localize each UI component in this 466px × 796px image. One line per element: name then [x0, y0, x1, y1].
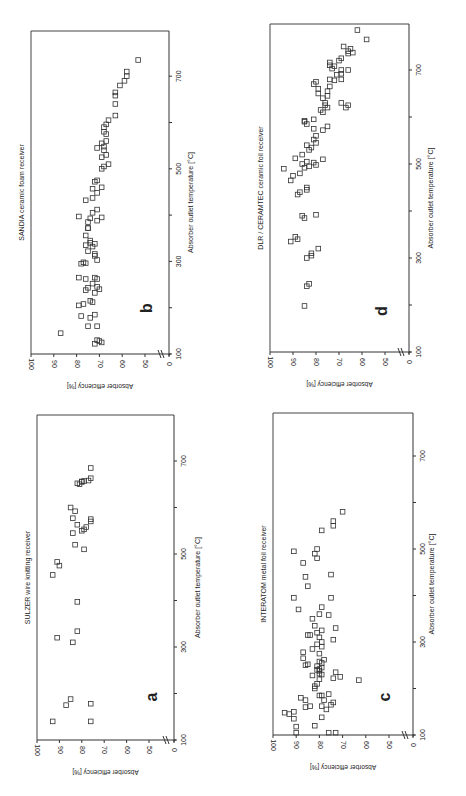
data-point — [99, 185, 104, 190]
data-point — [287, 712, 292, 717]
data-point — [298, 171, 303, 176]
data-point — [301, 656, 306, 661]
data-point — [104, 153, 109, 158]
data-point — [294, 724, 299, 729]
efficiency-tick-label: 100 — [267, 356, 274, 368]
chart-title: SANDIA ceramic foam receiver — [18, 144, 25, 241]
data-point — [322, 698, 327, 703]
data-point — [302, 304, 307, 309]
data-point — [315, 630, 320, 635]
data-point — [282, 166, 287, 171]
efficiency-tick-label: 50 — [386, 741, 393, 749]
data-point — [316, 87, 321, 92]
data-point — [88, 466, 93, 471]
data-point — [93, 312, 98, 317]
figure-canvas: 10090807060500100300500700Absorber outle… — [0, 0, 466, 796]
data-point — [328, 60, 333, 65]
temperature-tick-label: 500 — [419, 543, 426, 555]
data-point — [71, 516, 76, 521]
data-point — [104, 139, 109, 144]
data-point — [325, 89, 330, 94]
data-point — [73, 509, 78, 514]
data-point — [328, 77, 333, 82]
data-point — [71, 640, 76, 645]
efficiency-axis-title: Absorber efficiency [%] — [72, 768, 139, 776]
data-point — [50, 573, 55, 578]
efficiency-tick-label: 50 — [382, 358, 389, 366]
data-point — [79, 314, 84, 319]
data-point — [339, 101, 344, 106]
data-point — [311, 117, 316, 122]
efficiency-tick-label: 60 — [359, 358, 366, 366]
data-point — [306, 584, 311, 589]
data-point — [58, 331, 63, 336]
data-point — [124, 74, 129, 79]
data-point — [326, 730, 331, 735]
data-point — [315, 556, 320, 561]
data-point — [331, 519, 336, 524]
data-point — [124, 69, 129, 74]
chart-panel-c: 10090807060500100300500700Absorber outle… — [260, 413, 436, 771]
data-point — [317, 612, 322, 617]
data-point — [113, 90, 118, 95]
data-point — [288, 178, 293, 183]
temperature-axis-title: Absorber outlet temperature [°C] — [427, 148, 435, 249]
data-point — [71, 531, 76, 536]
data-point — [136, 58, 141, 63]
data-point — [122, 79, 127, 84]
data-point — [93, 252, 98, 257]
data-point — [326, 613, 331, 618]
efficiency-axis-title: Absorber efficiency [%] — [310, 763, 377, 771]
data-point — [331, 676, 336, 681]
data-point — [292, 549, 297, 554]
data-point — [301, 561, 306, 566]
panel-letter: b — [138, 303, 155, 313]
data-point — [64, 703, 69, 708]
chart-panel-b: 10090807060500100300500700Absorber outle… — [18, 31, 195, 390]
data-point — [316, 91, 321, 96]
temperature-tick-label: 700 — [175, 70, 182, 82]
data-point — [99, 215, 104, 220]
data-point — [331, 637, 336, 642]
efficiency-tick-label: 100 — [28, 358, 35, 370]
data-point — [86, 249, 91, 254]
temperature-axis-title: Absorber outlet temperature [°C] — [194, 537, 202, 638]
efficiency-tick-label: 60 — [363, 741, 370, 749]
data-point — [312, 623, 317, 628]
data-point — [321, 128, 326, 133]
temperature-tick-label: 300 — [415, 252, 422, 264]
data-point — [325, 94, 330, 99]
data-point — [95, 191, 100, 196]
data-point — [308, 704, 313, 709]
data-point — [292, 596, 297, 601]
data-point — [88, 719, 93, 724]
data-point — [88, 701, 93, 706]
data-point — [301, 650, 306, 655]
data-point — [294, 730, 299, 735]
data-point — [319, 605, 324, 610]
data-point — [329, 596, 334, 601]
efficiency-tick-label: 80 — [313, 358, 320, 366]
data-point — [321, 157, 326, 162]
data-point — [82, 547, 87, 552]
data-point — [68, 697, 73, 702]
efficiency-tick-label: 70 — [97, 360, 104, 368]
efficiency-tick-label: 90 — [290, 358, 297, 366]
data-point — [316, 246, 321, 251]
data-point — [95, 324, 100, 329]
temperature-tick-label: 100 — [175, 348, 182, 360]
temperature-tick-label: 300 — [180, 641, 187, 653]
data-point — [291, 173, 296, 178]
data-point — [312, 723, 317, 728]
data-point — [118, 83, 123, 88]
data-point — [90, 196, 95, 201]
data-point — [334, 72, 339, 77]
chart-title: SULZER wire knitting receiver — [24, 530, 32, 624]
efficiency-tick-label: 100 — [270, 739, 277, 751]
efficiency-tick-label: 70 — [336, 358, 343, 366]
data-point — [333, 626, 338, 631]
data-point — [90, 281, 95, 286]
efficiency-tick-label: 100 — [34, 744, 41, 756]
data-point — [299, 696, 304, 701]
chart-panel-a: 10090807060500100300500700Absorber outle… — [24, 415, 202, 776]
